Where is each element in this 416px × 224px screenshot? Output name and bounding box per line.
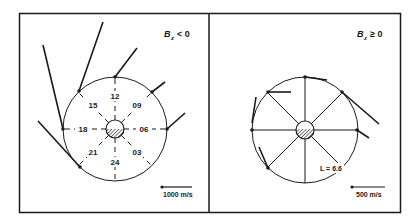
velocity-vectors [250,75,379,170]
scale-bar-label: 500 m/s [356,191,382,198]
svg-text:L = 6.6: L = 6.6 [320,165,342,172]
panel-title: B z ≥ 0 [357,29,382,41]
scale-bar: 1000 m/s [160,185,192,198]
lt-label-12: 12 [111,92,120,101]
panel-title: B z < 0 [164,29,190,41]
title-subscript: z [363,35,367,41]
panel-bz-negative: B z < 0 12 15 09 [38,22,193,198]
earth-icon [296,121,314,139]
earth-icon [106,120,124,138]
lt-label-06: 06 [140,125,149,134]
lt-label-18: 18 [79,125,88,134]
lt-label-03: 03 [133,148,142,157]
figure-frame [20,14,401,213]
title-relation: ≥ 0 [370,29,382,39]
title-symbol: B [357,29,364,39]
title-subscript: z [170,35,174,41]
scale-bar-label: 1000 m/s [163,191,193,198]
panel-bz-positive: B z ≥ 0 L = 6 [250,29,385,198]
scale-bar: 500 m/s [350,185,385,198]
lt-label-09: 09 [133,101,142,110]
lt-label-21: 21 [89,148,98,157]
lt-label-24: 24 [111,158,120,167]
l-shell-label: L = 6.6 [318,163,344,173]
title-relation: < 0 [177,29,190,39]
title-symbol: B [164,29,171,39]
lt-label-15: 15 [89,101,98,110]
figure: B z < 0 12 15 09 [0,0,416,224]
